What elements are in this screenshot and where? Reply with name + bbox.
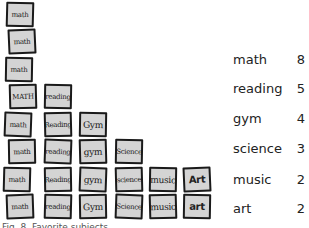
legend-label: music	[233, 172, 271, 187]
legend-value: 2	[297, 201, 305, 216]
card-math: math	[8, 139, 36, 164]
card-gym: Gym	[79, 111, 107, 136]
card-music: music	[149, 194, 178, 220]
legend-row-math: math 8	[233, 52, 309, 70]
card-math: math	[7, 28, 36, 54]
card-art: Art	[182, 166, 211, 192]
card-science: science	[115, 166, 144, 192]
legend-value: 5	[297, 81, 305, 96]
legend-row-gym: gym 4	[233, 111, 309, 129]
card-reading: reading	[44, 139, 73, 165]
figure-caption: Fig. 8. Favorite subjects	[2, 222, 108, 228]
legend-label: art	[233, 201, 251, 216]
card-science: Science	[115, 194, 144, 220]
legend-value: 4	[297, 111, 305, 126]
card-music: music	[149, 166, 177, 191]
card-math: math	[6, 1, 35, 27]
legend-label: science	[233, 141, 282, 156]
legend-row-art: art 2	[233, 201, 309, 219]
legend-label: reading	[233, 81, 282, 96]
card-gym: Gym	[79, 194, 107, 219]
legend-label: gym	[233, 111, 262, 126]
legend-label: math	[233, 52, 267, 67]
legend-row-music: music 2	[233, 172, 309, 190]
card-reading: reading	[44, 84, 72, 109]
card-gym: gym	[79, 139, 108, 165]
card-math: math	[5, 56, 33, 81]
legend-row-science: science 3	[233, 141, 309, 159]
card-math: MATH	[9, 84, 38, 110]
legend-row-reading: reading 5	[233, 81, 309, 99]
legend-value: 8	[297, 52, 305, 67]
card-science: Science	[115, 139, 143, 164]
card-reading: Reading	[44, 166, 72, 191]
card-reading: Reading	[44, 111, 73, 137]
legend-value: 3	[297, 141, 305, 156]
card-art: art	[183, 194, 211, 219]
card-math: math	[3, 166, 32, 192]
card-math: math	[4, 111, 33, 137]
card-gym: gym	[79, 166, 108, 192]
legend-value: 2	[297, 172, 305, 187]
card-math: math	[6, 194, 35, 220]
card-reading: reading	[44, 194, 73, 220]
